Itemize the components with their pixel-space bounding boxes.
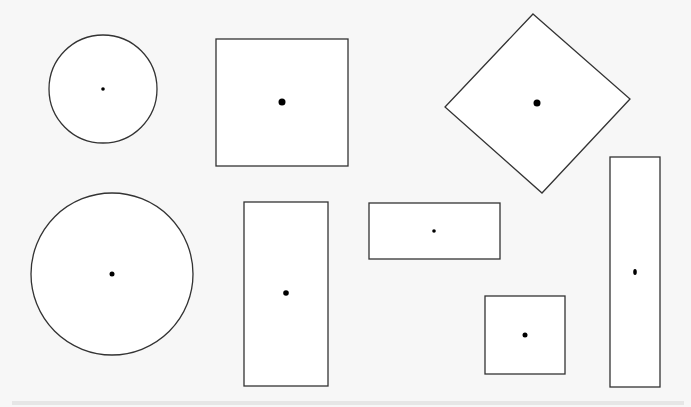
square-top-shape: [216, 39, 348, 166]
rect-narrow-tall-shape: [610, 157, 660, 387]
rect-narrow-tall-center-dot: [633, 269, 637, 275]
bottom-strip: [12, 401, 684, 405]
circle-large-center-dot: [110, 272, 115, 277]
rect-tall-shape: [244, 202, 328, 386]
square-top-center-dot: [279, 99, 286, 106]
diamond-shape: [445, 14, 630, 193]
rect-tall-center-dot: [283, 290, 289, 296]
rect-wide-center-dot: [432, 229, 436, 233]
rect-wide-shape: [369, 203, 500, 259]
shapes-diagram: [0, 0, 691, 407]
circle-large-shape: [31, 193, 193, 355]
square-small-center-dot: [523, 333, 528, 338]
diamond-center-dot: [534, 100, 541, 107]
circle-small-center-dot: [101, 87, 105, 91]
square-small-shape: [485, 296, 565, 374]
circle-small-shape: [49, 35, 157, 143]
